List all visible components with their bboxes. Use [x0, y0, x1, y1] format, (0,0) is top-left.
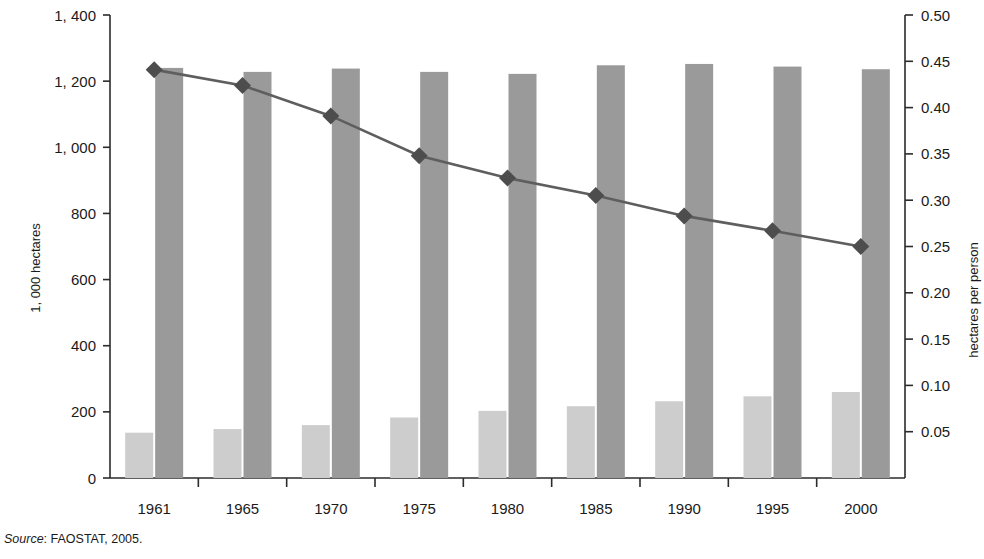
left-axis-tick-label: 0 — [88, 470, 96, 487]
x-axis-tick-label: 1961 — [137, 500, 170, 517]
right-axis-tick-label: 0.45 — [921, 53, 950, 70]
left-axis-tick-label: 200 — [71, 403, 96, 420]
x-axis-tick-label: 2000 — [844, 500, 877, 517]
bar-light — [302, 425, 330, 478]
right-axis-tick-label: 0.40 — [921, 99, 950, 116]
x-axis-tick-label: 1980 — [491, 500, 524, 517]
bar-light — [744, 396, 772, 478]
right-axis-tick-label: 0.25 — [921, 238, 950, 255]
x-axis-tick-label: 1970 — [314, 500, 347, 517]
left-axis-tick-label: 1, 000 — [54, 139, 96, 156]
right-axis-tick-label: 0.15 — [921, 331, 950, 348]
x-axis-tick-label: 1995 — [756, 500, 789, 517]
left-axis-tick-label: 800 — [71, 205, 96, 222]
source-note: Source: FAOSTAT, 2005. — [4, 532, 143, 546]
right-axis-tick-label: 0.20 — [921, 284, 950, 301]
x-axis-tick-label: 1990 — [667, 500, 700, 517]
bar-light — [479, 411, 507, 478]
right-axis-tick-label: 0.10 — [921, 377, 950, 394]
bar-dark — [332, 69, 360, 478]
bar-light — [567, 406, 595, 478]
bar-dark — [862, 69, 890, 478]
bar-light — [655, 401, 683, 478]
left-axis-tick-label: 1, 400 — [54, 7, 96, 24]
bar-dark — [774, 67, 802, 478]
combo-chart: 02004006008001, 0001, 2001, 4000.050.100… — [0, 0, 984, 530]
bar-dark — [155, 68, 183, 478]
x-axis-tick-label: 1965 — [226, 500, 259, 517]
source-label: Source — [4, 532, 44, 546]
bar-light — [214, 429, 242, 478]
bar-light — [832, 392, 860, 478]
bar-light — [390, 417, 418, 478]
source-separator: : — [44, 532, 51, 546]
source-text: FAOSTAT, 2005. — [51, 532, 143, 546]
right-axis-title: hectares per person — [966, 242, 981, 358]
left-axis-tick-label: 600 — [71, 271, 96, 288]
right-axis-tick-label: 0.35 — [921, 145, 950, 162]
bar-dark — [597, 65, 625, 478]
right-axis-tick-label: 0.30 — [921, 192, 950, 209]
bar-dark — [244, 72, 272, 478]
right-axis-tick-label: 0.50 — [921, 7, 950, 24]
left-axis-tick-label: 1, 200 — [54, 73, 96, 90]
bar-dark — [509, 74, 537, 478]
right-axis-tick-label: 0.05 — [921, 423, 950, 440]
chart-figure: 02004006008001, 0001, 2001, 4000.050.100… — [0, 0, 984, 559]
bar-light — [125, 433, 153, 478]
bar-dark — [420, 72, 448, 478]
left-axis-tick-label: 400 — [71, 337, 96, 354]
x-axis-tick-label: 1985 — [579, 500, 612, 517]
x-axis-tick-label: 1975 — [402, 500, 435, 517]
bar-dark — [685, 64, 713, 478]
left-axis-title: 1, 000 hectares — [28, 223, 43, 313]
